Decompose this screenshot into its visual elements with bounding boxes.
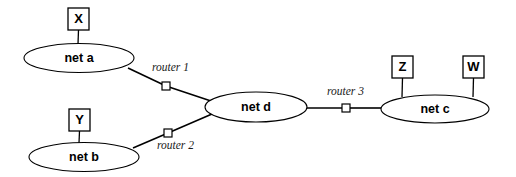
network-group: net a net b net d net c	[24, 44, 489, 172]
stem-host-x	[78, 30, 79, 44]
host-node-z[interactable]: Z	[392, 56, 413, 78]
network-node-net-d[interactable]: net d	[205, 92, 307, 122]
host-node-y[interactable]: Y	[69, 109, 90, 131]
host-node-x[interactable]: X	[68, 8, 89, 30]
network-node-net-a[interactable]: net a	[24, 44, 134, 73]
host-label-z: Z	[399, 59, 407, 74]
host-label-y: Y	[75, 112, 84, 127]
host-label-x: X	[74, 11, 83, 26]
network-node-net-c[interactable]: net c	[381, 95, 489, 123]
network-node-net-b[interactable]: net b	[29, 143, 139, 172]
router-square-1	[162, 82, 170, 90]
network-label-net-c: net c	[420, 102, 449, 116]
stem-host-y	[79, 131, 80, 143]
network-label-net-d: net d	[241, 100, 271, 114]
network-label-net-b: net b	[69, 150, 99, 164]
network-diagram: net a net b net d net c X Y	[0, 0, 516, 177]
router-label-3: router 3	[327, 85, 364, 97]
host-node-w[interactable]: W	[463, 56, 484, 78]
stem-host-z	[402, 78, 403, 97]
router-square-2	[164, 129, 172, 137]
network-label-net-a: net a	[64, 51, 94, 65]
host-label-w: W	[467, 59, 480, 74]
router-square-3	[342, 104, 350, 112]
router-node-1[interactable]: router 1	[152, 61, 189, 90]
network-diagram-canvas: net a net b net d net c X Y	[0, 0, 516, 177]
router-label-2: router 2	[157, 139, 194, 151]
router-label-1: router 1	[152, 61, 189, 73]
router-node-2[interactable]: router 2	[157, 129, 194, 151]
link-router-2-net-d	[168, 114, 212, 133]
stem-host-w	[473, 78, 474, 97]
link-router-1-net-d	[166, 86, 211, 101]
host-stem-group	[78, 30, 474, 143]
